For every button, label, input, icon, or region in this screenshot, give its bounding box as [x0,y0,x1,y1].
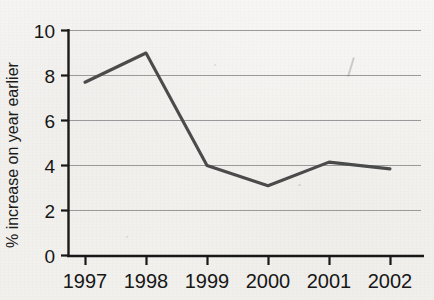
y-tick-label-2: 2 [44,201,55,222]
y-tick-label-10: 10 [34,21,55,42]
y-axis-title: % increase on year earlier [4,61,21,248]
y-tick-label-0: 0 [44,246,55,267]
x-tick-marks [86,256,391,265]
x-tick-label-1999: 1999 [185,270,230,292]
x-tick-label-2002: 2002 [368,270,413,292]
gridlines [68,31,421,211]
x-tick-label-2001: 2001 [307,270,352,292]
x-tick-label-2000: 2000 [246,270,291,292]
y-tick-label-6: 6 [44,111,55,132]
y-tick-label-4: 4 [44,156,55,177]
line-chart: 10 8 6 4 2 0 1997 1998 1999 2000 2001 20… [0,0,434,300]
chart-figure: 10 8 6 4 2 0 1997 1998 1999 2000 2001 20… [0,0,434,300]
y-tick-label-8: 8 [44,66,55,87]
x-tick-label-1997: 1997 [63,270,108,292]
x-tick-label-1998: 1998 [124,270,169,292]
